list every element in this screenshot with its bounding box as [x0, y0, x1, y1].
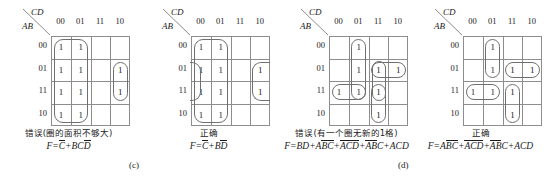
kmap-group-oval: [466, 84, 501, 100]
row-header-0: 00: [170, 40, 187, 50]
kmap-caption: 错误(圈的面积不够大): [0, 128, 137, 139]
column-header-1: 01: [349, 16, 368, 26]
kmap-group-oval: [505, 84, 520, 123]
kmap-cell: [463, 59, 483, 82]
column-header-2: 11: [231, 16, 250, 26]
row-header-3: 10: [308, 108, 325, 118]
kmap-cell: [91, 81, 111, 104]
kmap-cell: [250, 36, 270, 59]
kmap-group-oval-redundant: [372, 61, 386, 101]
row-header-3: 10: [30, 108, 47, 118]
kmap-block-c-wrong: CD AB 00 01 11 10 00 01 11 10: [0, 0, 137, 179]
column-header-3: 10: [522, 16, 541, 26]
formula-token: BC: [71, 141, 83, 151]
kmap-cell: [463, 104, 483, 127]
kmap-group-oval: [485, 39, 500, 78]
column-header-0: 00: [51, 16, 70, 26]
kmap-caption: 正确: [140, 128, 277, 139]
kmap-block-d-correct: CD AB 00 01 11 10 00 01 11 10: [412, 0, 547, 179]
ab-axis-label: AB: [22, 21, 33, 31]
cd-axis-label: CD: [443, 7, 456, 17]
kmap-grid-area: CD AB 00 01 11 10 00 01 11 10: [22, 8, 130, 126]
row-header-2: 11: [170, 85, 187, 95]
row-header-2: 11: [442, 85, 459, 95]
kmap-cell: [231, 59, 251, 82]
column-header-3: 10: [388, 16, 407, 26]
kmap-cell: [231, 104, 251, 127]
kmap-cell: [349, 104, 369, 127]
row-headers: 00 01 11 10: [308, 36, 327, 126]
kmap-cell: [231, 81, 251, 104]
kmap-cell: [522, 104, 542, 127]
kmap-cell: [369, 36, 389, 59]
column-header-2: 11: [503, 16, 522, 26]
formula-token-bar: BC: [321, 140, 333, 151]
subfigure-label-d: (d): [398, 160, 409, 171]
kmap-corner-header: CD AB: [300, 8, 329, 36]
kmap-grid: 1 1 1 1 1 1 1 1: [329, 36, 408, 126]
subfigure-label-c: (c): [129, 160, 139, 171]
column-header-2: 11: [91, 16, 110, 26]
kmap-cell: [522, 81, 542, 104]
kmap-cell: [91, 59, 111, 82]
column-header-1: 01: [483, 16, 502, 26]
kmap-block-d-wrong: CD AB 00 01 11 10 00 01 11 10: [278, 0, 415, 179]
kmap-block-c-correct: CD AB 00 01 11 10 00 01 11 10: [140, 0, 277, 179]
ab-axis-label: AB: [162, 21, 173, 31]
cd-axis-label: CD: [31, 7, 44, 17]
formula-token: =: [52, 141, 58, 151]
kmap-cell: [503, 36, 523, 59]
row-header-0: 00: [308, 40, 325, 50]
column-header-3: 10: [250, 16, 269, 26]
kmap-corner-header: CD AB: [162, 8, 191, 36]
row-header-1: 01: [442, 63, 459, 73]
formula-token: A: [440, 141, 446, 151]
row-header-2: 11: [30, 85, 47, 95]
formula-token: =: [195, 141, 201, 151]
kmap-group-oval: [113, 62, 128, 101]
row-header-3: 10: [442, 108, 459, 118]
cd-axis-label: CD: [171, 7, 184, 17]
formula-token-bar: AB: [490, 140, 502, 151]
kmap-grid-area: CD AB 00 01 11 10 00 01 11 10: [434, 8, 542, 126]
kmap-caption: 错误(有一个圈无新的1格): [278, 128, 415, 139]
column-header-1: 01: [211, 16, 230, 26]
column-headers: 00 01 11 10: [51, 16, 130, 30]
ab-axis-label: AB: [300, 21, 311, 31]
row-headers: 00 01 11 10: [170, 36, 189, 126]
column-header-0: 00: [191, 16, 210, 26]
kmap-cell: [231, 36, 251, 59]
formula-token: +: [483, 141, 489, 151]
row-header-1: 01: [170, 63, 187, 73]
kmap-grid-area: CD AB 00 01 11 10 00 01 11 10: [300, 8, 408, 126]
ab-axis-label: AB: [434, 21, 445, 31]
kmap-cell: [388, 36, 408, 59]
formula-token: BD: [296, 141, 309, 151]
formula-token-bar: ACD: [340, 140, 359, 151]
row-header-1: 01: [30, 63, 47, 73]
kmap-cell: [483, 104, 503, 127]
kmap-formula: F=BD+ABC+ACD+ABC+ACD: [278, 140, 415, 152]
kmap-grid: 1 1 1 1 1 1 1 1: [463, 36, 542, 126]
figure-canvas: CD AB 00 01 11 10 00 01 11 10: [0, 0, 547, 179]
kmap-cell: [250, 104, 270, 127]
row-headers: 00 01 11 10: [442, 36, 461, 126]
kmap-cell: [388, 104, 408, 127]
column-headers: 00 01 11 10: [463, 16, 542, 30]
row-headers: 00 01 11 10: [30, 36, 49, 126]
kmap-caption: 正确: [412, 128, 547, 139]
kmap-cell: [329, 104, 349, 127]
kmap-cell: [110, 36, 130, 59]
formula-token: ACD: [514, 141, 533, 151]
kmap-grid-area: CD AB 00 01 11 10 00 01 11 10: [162, 8, 270, 126]
column-header-0: 00: [329, 16, 348, 26]
column-header-2: 11: [369, 16, 388, 26]
formula-token: ACD: [390, 141, 409, 151]
column-header-0: 00: [463, 16, 482, 26]
kmap-group-oval: [332, 84, 367, 100]
kmap-group-oval: [54, 39, 89, 123]
kmap-group-oval-wrap-left: [190, 62, 201, 101]
kmap-formula: F=C+BCD: [0, 140, 137, 152]
column-header-1: 01: [71, 16, 90, 26]
formula-token-bar: D: [84, 140, 91, 151]
